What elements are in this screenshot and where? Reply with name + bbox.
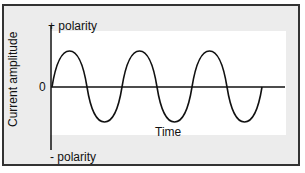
y-axis-label: Current amplitude [6, 47, 20, 127]
x-axis-label: Time [155, 125, 181, 139]
negative-polarity-label: - polarity [50, 150, 96, 164]
positive-polarity-label: + polarity [48, 19, 97, 33]
zero-label: 0 [39, 80, 46, 94]
